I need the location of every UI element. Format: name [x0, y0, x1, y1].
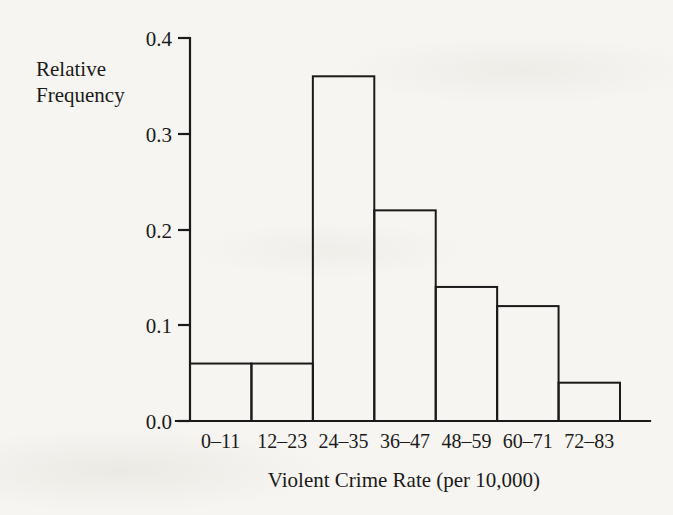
histogram-bar: [497, 306, 558, 421]
x-tick-label: 48–59: [441, 430, 491, 452]
x-tick-label: 36–47: [380, 430, 430, 452]
relative-frequency-histogram: Relative Frequency 0.4 0.3 0.2 0.1 0.0 0…: [0, 0, 673, 515]
histogram-bar: [313, 76, 374, 421]
y-tick-label-3: 0.3: [146, 123, 172, 147]
y-tick-label-1: 0.1: [146, 314, 172, 338]
y-axis-tick-labels: 0.4 0.3 0.2 0.1 0.0: [146, 27, 173, 434]
x-tick-label: 24–35: [319, 430, 369, 452]
y-tick-label-2: 0.2: [146, 219, 172, 243]
x-tick-label: 60–71: [503, 430, 553, 452]
histogram-bar: [374, 210, 435, 421]
y-axis-caption-line-2: Frequency: [36, 83, 125, 107]
x-axis-title: Violent Crime Rate (per 10,000): [268, 468, 540, 492]
histogram-bar: [251, 364, 312, 421]
x-axis-tick-labels: 0–1112–2324–3536–4748–5960–7172–83: [201, 430, 614, 452]
y-axis-ticks: [178, 38, 190, 421]
histogram-bars: [190, 76, 620, 421]
histogram-bar: [190, 364, 251, 421]
x-tick-label: 12–23: [257, 430, 307, 452]
x-tick-label: 0–11: [201, 430, 240, 452]
histogram-bar: [436, 287, 497, 421]
y-axis-caption-line-1: Relative: [36, 57, 106, 81]
y-tick-label-0: 0.0: [146, 410, 172, 434]
histogram-figure: Relative Frequency 0.4 0.3 0.2 0.1 0.0 0…: [0, 0, 673, 515]
x-tick-label: 72–83: [564, 430, 614, 452]
y-axis-caption: Relative Frequency: [36, 57, 125, 107]
y-tick-label-4: 0.4: [146, 27, 173, 51]
histogram-bar: [559, 383, 620, 421]
